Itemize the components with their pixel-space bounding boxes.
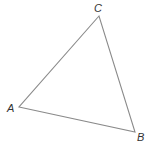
vertex-label-a: A bbox=[6, 102, 14, 114]
triangle-diagram: A B C bbox=[0, 0, 149, 145]
triangle-abc bbox=[19, 16, 135, 132]
vertex-label-b: B bbox=[137, 131, 144, 143]
vertex-label-c: C bbox=[94, 2, 102, 14]
triangle-svg: A B C bbox=[0, 0, 149, 145]
